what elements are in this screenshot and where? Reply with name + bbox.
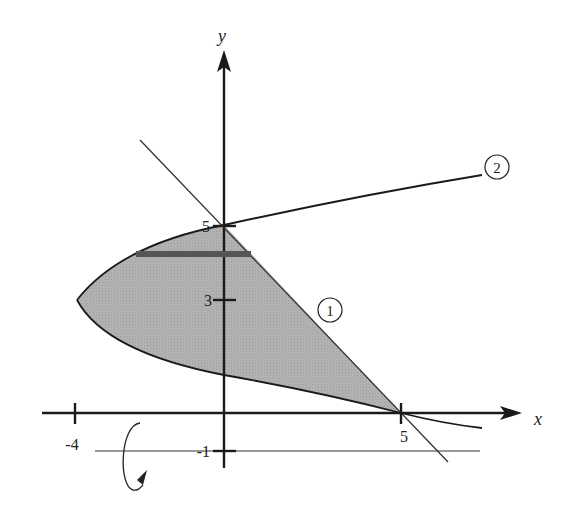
tick-label-y-3: 3 <box>204 292 212 309</box>
curve-2-label: 2 <box>493 160 501 176</box>
tick-label-y-5: 5 <box>202 218 210 235</box>
y-axis-label: y <box>216 26 226 46</box>
tick-label-x-neg4: -4 <box>65 436 78 453</box>
diagram-canvas: y x -4 5 5 3 -1 1 2 <box>0 0 571 521</box>
tick-label-y-neg1: -1 <box>197 443 210 460</box>
curve-1-label: 1 <box>326 303 334 319</box>
rotation-arrowhead-icon <box>137 470 147 485</box>
representative-strip <box>136 251 251 257</box>
tick-label-x-5: 5 <box>400 428 408 445</box>
x-axis-label: x <box>533 409 542 429</box>
